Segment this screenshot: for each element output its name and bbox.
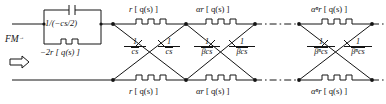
lattice-denominator-1: cs	[131, 47, 138, 56]
top-element-label-2: αr [ q(s) ]	[196, 5, 229, 14]
top-element-label-3: αⁿr [ q(s) ]	[311, 5, 347, 14]
top-resistor-3	[299, 19, 372, 24]
lattice-numerator-4: 1	[229, 38, 255, 46]
lattice-label-2: 1 cs	[158, 38, 180, 57]
top-element-arg-1: [ q(s) ]	[135, 4, 158, 14]
lattice-denominator-4: βcs	[236, 47, 248, 56]
bottom-element-main-2: αr	[196, 86, 204, 96]
lattice-denominator-3: βcs	[201, 47, 213, 56]
top-element-main-3: αⁿr	[311, 4, 322, 14]
lattice-numerator-5: 1	[307, 38, 335, 46]
lattice-denominator-5: βⁿcs	[314, 47, 328, 56]
bottom-element-main-1: r	[129, 86, 132, 96]
bottom-element-label-2: αr [ q(s) ]	[196, 87, 229, 96]
lattice-numerator-2: 1	[158, 38, 180, 46]
lattice-denominator-2: cs	[165, 47, 172, 56]
lattice-numerator-1: 1	[124, 38, 146, 46]
fm-input-text: FM	[5, 34, 19, 44]
bottom-element-arg-3: [ q(s) ]	[324, 86, 347, 96]
bottom-element-arg-2: [ q(s) ]	[206, 86, 229, 96]
lattice-label-6: 1 βⁿcs	[344, 38, 372, 57]
fm-input-label: FM→	[5, 35, 24, 45]
top-element-main-2: αr	[196, 4, 204, 14]
bottom-element-label-1: r [ q(s) ]	[129, 87, 158, 96]
top-element-arg-2: [ q(s) ]	[206, 4, 229, 14]
source-resistor-label: −2r [ q(s) ]	[40, 48, 80, 57]
lattice-denominator-6: βⁿcs	[351, 47, 365, 56]
lattice-numerator-3: 1	[194, 38, 220, 46]
lattice-numerator-6: 1	[344, 38, 372, 46]
top-resistor-2	[186, 19, 255, 24]
bottom-resistor-3	[299, 75, 372, 80]
bottom-resistor-2	[186, 75, 255, 80]
bottom-element-main-3: αⁿr	[311, 86, 322, 96]
lattice-label-5: 1 βⁿcs	[307, 38, 335, 57]
top-resistor-1	[113, 19, 186, 24]
bottom-resistor-1	[113, 75, 186, 80]
lattice-label-4: 1 βcs	[229, 38, 255, 57]
top-element-label-1: r [ q(s) ]	[129, 5, 158, 14]
bottom-element-label-3: αⁿr [ q(s) ]	[311, 87, 347, 96]
lattice-label-3: 1 βcs	[194, 38, 220, 57]
lattice-label-1: 1 cs	[124, 38, 146, 57]
bottom-element-arg-1: [ q(s) ]	[135, 86, 158, 96]
top-element-main-1: r	[129, 4, 132, 14]
fm-input-subscript: →	[19, 34, 25, 40]
fm-input-arrow-icon	[10, 56, 29, 68]
circuit-diagram-canvas: 1/(−cs/2) −2r [ q(s) ] FM→ r [ q(s) ] αr…	[0, 0, 386, 104]
source-capacitor-label: 1/(−cs/2)	[45, 19, 77, 28]
source-resistor-zigzag	[61, 39, 84, 44]
top-element-arg-3: [ q(s) ]	[324, 4, 347, 14]
